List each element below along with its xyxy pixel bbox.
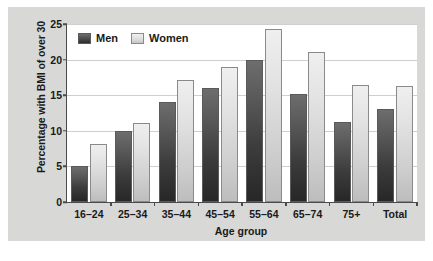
bar-group bbox=[334, 24, 370, 202]
bar-women-6574[interactable] bbox=[308, 52, 325, 202]
legend-swatch-icon bbox=[78, 33, 91, 44]
x-tick-mark bbox=[241, 202, 243, 206]
bar-series-container bbox=[67, 24, 417, 202]
bar-women-5564[interactable] bbox=[265, 29, 282, 202]
legend-entry-men[interactable]: Men bbox=[78, 32, 118, 44]
bar-men-2534[interactable] bbox=[115, 131, 132, 202]
bar-women-4554[interactable] bbox=[221, 67, 238, 202]
bar-group bbox=[290, 24, 326, 202]
bar-men-1624[interactable] bbox=[71, 166, 88, 202]
x-tick-label: Total bbox=[383, 208, 407, 220]
x-tick-label: 25–34 bbox=[118, 208, 147, 220]
bar-group bbox=[115, 24, 151, 202]
y-tick-label: 10 bbox=[50, 125, 62, 137]
bar-men-4554[interactable] bbox=[202, 88, 219, 202]
bar-women-2534[interactable] bbox=[133, 123, 150, 202]
chart-figure: Percentage with BMI of over 30 051015202… bbox=[0, 0, 433, 261]
bar-group bbox=[202, 24, 238, 202]
x-tick-label: 45–54 bbox=[206, 208, 235, 220]
x-tick-label: 55–64 bbox=[249, 208, 278, 220]
legend-swatch-icon bbox=[131, 33, 144, 44]
x-tick-mark bbox=[285, 202, 287, 206]
x-tick-mark bbox=[373, 202, 375, 206]
bar-group bbox=[377, 24, 413, 202]
bar-group bbox=[71, 24, 107, 202]
legend-label: Men bbox=[96, 32, 118, 44]
x-tick-label: 75+ bbox=[342, 208, 360, 220]
bar-men-Total[interactable] bbox=[377, 109, 394, 202]
x-tick-label: 65–74 bbox=[293, 208, 322, 220]
y-axis-title: Percentage with BMI of over 30 bbox=[35, 0, 47, 197]
bar-women-3544[interactable] bbox=[177, 80, 194, 202]
legend-entry-women[interactable]: Women bbox=[131, 32, 189, 44]
bar-men-5564[interactable] bbox=[246, 60, 263, 202]
x-tick-mark bbox=[154, 202, 156, 206]
x-tick-mark bbox=[110, 202, 112, 206]
bar-men-3544[interactable] bbox=[159, 102, 176, 202]
y-tick-label: 20 bbox=[50, 54, 62, 66]
bar-group bbox=[159, 24, 195, 202]
y-tick-label: 0 bbox=[56, 196, 62, 208]
bar-women-75+[interactable] bbox=[352, 85, 369, 202]
x-tick-mark bbox=[416, 202, 418, 206]
chart-panel: Percentage with BMI of over 30 051015202… bbox=[8, 7, 425, 241]
plot-area: 0510152025 16–2425–3435–4445–5455–6465–7… bbox=[66, 24, 417, 203]
x-tick-label: 16–24 bbox=[74, 208, 103, 220]
bar-men-6574[interactable] bbox=[290, 94, 307, 202]
bar-group bbox=[246, 24, 282, 202]
y-tick-label: 25 bbox=[50, 18, 62, 30]
y-tick-label: 15 bbox=[50, 89, 62, 101]
bar-women-1624[interactable] bbox=[90, 144, 107, 202]
x-tick-mark bbox=[198, 202, 200, 206]
x-tick-label: 35–44 bbox=[162, 208, 191, 220]
legend-label: Women bbox=[149, 32, 189, 44]
y-tick-label: 5 bbox=[56, 160, 62, 172]
bar-women-Total[interactable] bbox=[396, 86, 413, 202]
x-tick-mark bbox=[329, 202, 331, 206]
bar-men-75+[interactable] bbox=[334, 122, 351, 202]
chart-legend: MenWomen bbox=[78, 32, 189, 44]
x-axis-title: Age group bbox=[66, 225, 416, 237]
